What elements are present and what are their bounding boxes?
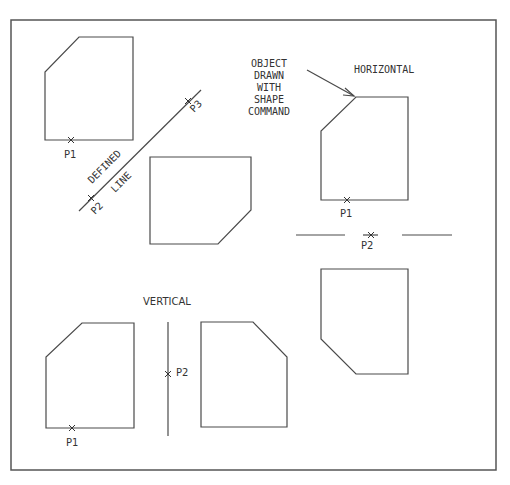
drawing-frame bbox=[11, 20, 496, 470]
vertical-label: VERTICAL bbox=[143, 296, 191, 307]
horizontal-label: HORIZONTAL bbox=[354, 64, 414, 75]
p2-label-horizontal: P2 bbox=[361, 240, 373, 251]
defined-mirror-line bbox=[79, 90, 201, 211]
original-shape-defined bbox=[45, 37, 133, 140]
p2-label-vertical: P2 bbox=[176, 367, 188, 378]
p1-label-horizontal: P1 bbox=[340, 208, 352, 219]
original-shape-horizontal bbox=[321, 97, 408, 200]
callout-line-1: OBJECT bbox=[251, 58, 287, 69]
callout-line-2: DRAWN bbox=[254, 70, 284, 81]
mirror-diagram: P1 P2 P3 DEFINED LINE OBJECT DRAWN WITH … bbox=[0, 0, 510, 485]
defined-line-section: P1 P2 P3 DEFINED LINE bbox=[45, 37, 251, 244]
callout-arrow-shaft bbox=[307, 70, 354, 96]
p2-marker bbox=[88, 195, 94, 201]
callout-line-3: WITH bbox=[257, 82, 281, 93]
mirrored-shape-vertical bbox=[201, 322, 287, 427]
mirrored-shape-horizontal bbox=[321, 269, 408, 374]
callout-line-4: SHAPE bbox=[254, 94, 284, 105]
line-label: LINE bbox=[109, 170, 134, 195]
vertical-section: VERTICAL P1 P2 bbox=[46, 296, 287, 448]
p2-label: P2 bbox=[89, 200, 106, 217]
p1-label: P1 bbox=[64, 149, 76, 160]
p1-label-vertical: P1 bbox=[66, 437, 78, 448]
arrow-head-icon bbox=[343, 88, 354, 96]
mirrored-shape-defined bbox=[150, 157, 251, 244]
horizontal-section: HORIZONTAL P1 P2 bbox=[296, 64, 452, 374]
shape-command-callout: OBJECT DRAWN WITH SHAPE COMMAND bbox=[248, 58, 354, 117]
original-shape-vertical bbox=[46, 323, 134, 428]
callout-line-5: COMMAND bbox=[248, 106, 290, 117]
